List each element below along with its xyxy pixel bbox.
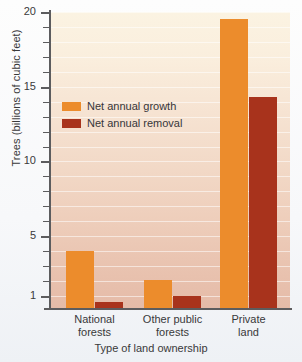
bar-removal-1 xyxy=(173,296,201,308)
y-tick-minor xyxy=(43,72,49,73)
y-tick-minor xyxy=(43,281,49,282)
y-tick-major xyxy=(41,12,49,14)
y-tick-major xyxy=(41,236,49,238)
bar-chart: Trees (billions of cubic feet) 20151051 … xyxy=(0,0,302,362)
y-tick-minor xyxy=(43,57,49,58)
legend-swatch-growth xyxy=(62,102,81,111)
y-tick-major xyxy=(41,87,49,89)
x-label-line2: land xyxy=(199,326,299,339)
y-tick-minor xyxy=(43,117,49,118)
x-axis-title: Type of land ownership xyxy=(0,342,302,354)
y-tick-minor xyxy=(43,132,49,133)
legend-item-growth: Net annual growth xyxy=(62,100,182,112)
x-label-line1: Private xyxy=(199,313,299,326)
bar-growth-1 xyxy=(144,280,172,308)
y-tick-minor xyxy=(43,147,49,148)
legend-swatch-removal xyxy=(62,119,81,128)
x-axis-line xyxy=(44,308,292,310)
gridline xyxy=(50,87,290,88)
legend-item-removal: Net annual removal xyxy=(62,117,182,129)
y-tick-minor xyxy=(43,176,49,177)
gridline xyxy=(50,57,290,58)
plot-area xyxy=(50,12,290,308)
y-tick-major xyxy=(41,296,49,298)
bar-growth-0 xyxy=(66,251,94,308)
y-axis-tick-label: 5 xyxy=(0,229,36,241)
legend: Net annual growth Net annual removal xyxy=(62,100,182,129)
y-axis-tick-label: 15 xyxy=(0,80,36,92)
gridline xyxy=(50,12,290,13)
legend-label-removal: Net annual removal xyxy=(87,117,182,129)
gridline xyxy=(50,72,290,73)
y-tick-minor xyxy=(43,251,49,252)
y-tick-minor xyxy=(43,102,49,103)
gridline xyxy=(50,27,290,28)
y-tick-minor xyxy=(43,27,49,28)
y-tick-minor xyxy=(43,42,49,43)
y-tick-minor xyxy=(43,266,49,267)
x-axis-group-label-2: Privateland xyxy=(199,313,299,339)
y-axis-line xyxy=(49,10,51,310)
y-axis-tick-label: 10 xyxy=(0,154,36,166)
y-tick-minor xyxy=(43,221,49,222)
y-tick-minor xyxy=(43,191,49,192)
y-tick-major xyxy=(41,161,49,163)
gridline xyxy=(50,42,290,43)
y-axis-tick-label: 1 xyxy=(0,289,36,301)
y-axis-tick-label: 20 xyxy=(0,5,36,17)
bar-growth-2 xyxy=(220,19,248,308)
y-tick-minor xyxy=(43,206,49,207)
bar-removal-2 xyxy=(249,97,277,308)
y-axis-title: Trees (billions of cubic feet) xyxy=(10,0,22,198)
legend-label-growth: Net annual growth xyxy=(87,100,176,112)
